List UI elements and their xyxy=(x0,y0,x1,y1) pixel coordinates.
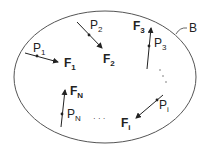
point-pi-dot xyxy=(156,99,159,102)
force-n-group: PN FN xyxy=(61,84,84,127)
body-b-outline xyxy=(14,11,196,143)
force-f2-label: F2 xyxy=(103,52,115,68)
force-i-group: Pi Fi xyxy=(121,95,169,132)
force-1-group: P1 F1 xyxy=(25,41,76,72)
force-f3-label: F3 xyxy=(133,19,145,35)
force-f1-label: F1 xyxy=(64,56,76,72)
point-pn-dot xyxy=(61,113,64,116)
point-p3-dot xyxy=(148,45,151,48)
force-fi-label: Fi xyxy=(121,116,131,132)
force-n-arrow xyxy=(61,90,65,127)
point-p2-label: P2 xyxy=(90,18,103,34)
body-b-leader-line xyxy=(176,28,187,34)
horizontal-ellipsis: · · · xyxy=(93,114,105,123)
point-p1-label: P1 xyxy=(33,41,46,57)
point-pi-label: Pi xyxy=(159,98,169,114)
force-fn-label: FN xyxy=(70,84,83,100)
point-p1-dot xyxy=(36,55,39,58)
vertical-ellipsis xyxy=(159,69,166,82)
force-3-group: P3 F3 xyxy=(133,19,167,69)
force-system-diagram: B P1 F1 P2 F2 P3 F3 Pi Fi · · · PN xyxy=(0,0,205,150)
force-3-arrow xyxy=(147,28,151,69)
point-pn-label: PN xyxy=(67,107,81,123)
point-p3-label: P3 xyxy=(154,36,167,52)
force-2-group: P2 F2 xyxy=(77,18,115,68)
body-b-label: B xyxy=(189,21,197,35)
point-p2-dot xyxy=(88,34,91,37)
